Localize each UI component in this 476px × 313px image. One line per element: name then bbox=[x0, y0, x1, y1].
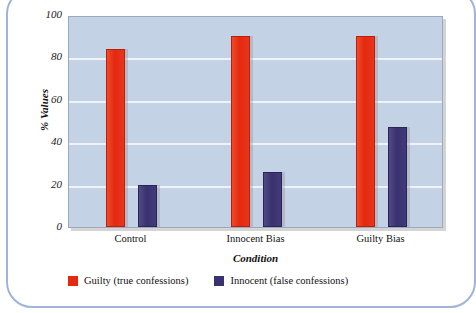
legend-swatch-icon bbox=[68, 276, 78, 286]
bar-innocent-bias-series-1 bbox=[263, 172, 282, 227]
y-axis-tick-label: 100 bbox=[22, 8, 62, 20]
legend-swatch-icon bbox=[214, 276, 224, 286]
x-axis-tick-label: Control bbox=[68, 233, 193, 244]
legend-label: Innocent (false confessions) bbox=[230, 275, 348, 286]
bar-control-series-1 bbox=[138, 185, 157, 227]
bar-guilty-bias-series-0 bbox=[356, 36, 375, 227]
x-axis-label: Condition bbox=[68, 252, 443, 264]
y-axis-tick-label: 40 bbox=[22, 135, 62, 147]
bar-innocent-bias-series-0 bbox=[231, 36, 250, 227]
bar-guilty-bias-series-1 bbox=[388, 127, 407, 227]
bar-control-series-0 bbox=[106, 49, 125, 227]
x-axis-tick-label: Guilty Bias bbox=[318, 233, 443, 244]
y-axis-tick-label: 0 bbox=[22, 220, 62, 232]
legend-item-0: Guilty (true confessions) bbox=[68, 275, 188, 286]
chart-title-clipped bbox=[26, 0, 326, 2]
y-axis-tick-label: 60 bbox=[22, 93, 62, 105]
y-axis-tick-label: 20 bbox=[22, 178, 62, 190]
plot-area bbox=[68, 16, 443, 228]
legend-item-1: Innocent (false confessions) bbox=[214, 275, 348, 286]
chart-legend: Guilty (true confessions)Innocent (false… bbox=[68, 275, 443, 286]
x-axis-tick-label: Innocent Bias bbox=[193, 233, 318, 244]
y-axis-tick-label: 80 bbox=[22, 50, 62, 62]
legend-label: Guilty (true confessions) bbox=[84, 275, 188, 286]
